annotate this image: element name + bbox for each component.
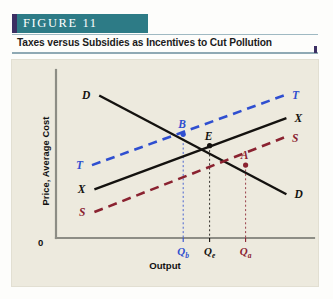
header-rule-end-tick — [314, 46, 317, 53]
x-axis-label: Output — [12, 260, 318, 271]
curve-d — [99, 95, 286, 194]
figure-header-band: FIGURE 11 — [12, 14, 148, 33]
curve-label-left-t: T — [76, 159, 84, 171]
curve-label-left-d: D — [81, 89, 91, 101]
point-a — [243, 163, 248, 168]
point-b — [181, 132, 186, 137]
curve-label-left-s: S — [79, 206, 85, 218]
figure-number-label: FIGURE 11 — [23, 16, 98, 31]
curve-label-right-d: D — [293, 188, 303, 200]
y-axis-label: Price, Average Cost — [41, 101, 51, 221]
chart-plot: QbQeQaDDXXTTSSBEA — [12, 60, 318, 286]
curve-label-right-t: T — [292, 89, 300, 101]
point-label-a: A — [240, 149, 249, 161]
x-tick-label-e: Qe — [204, 245, 216, 260]
chart-panel: QbQeQaDDXXTTSSBEA Price, Average Cost Ou… — [12, 60, 318, 286]
origin-label: 0 — [38, 237, 43, 248]
curve-label-left-x: X — [77, 183, 86, 195]
figure-container: FIGURE 11 Taxes versus Subsidies as Ince… — [0, 0, 333, 299]
point-e — [207, 143, 212, 148]
figure-subtitle: Taxes versus Subsidies as Incentives to … — [17, 37, 317, 48]
curve-s — [94, 138, 284, 213]
header-rule-bottom — [12, 52, 318, 54]
curve-label-right-x: X — [293, 112, 302, 124]
point-label-b: B — [177, 118, 186, 130]
curve-label-right-s: S — [292, 132, 298, 144]
header-rule-top — [12, 34, 318, 35]
point-label-e: E — [204, 130, 213, 142]
x-tick-label-a: Qa — [240, 245, 252, 260]
x-tick-label-b: Qb — [177, 245, 189, 260]
